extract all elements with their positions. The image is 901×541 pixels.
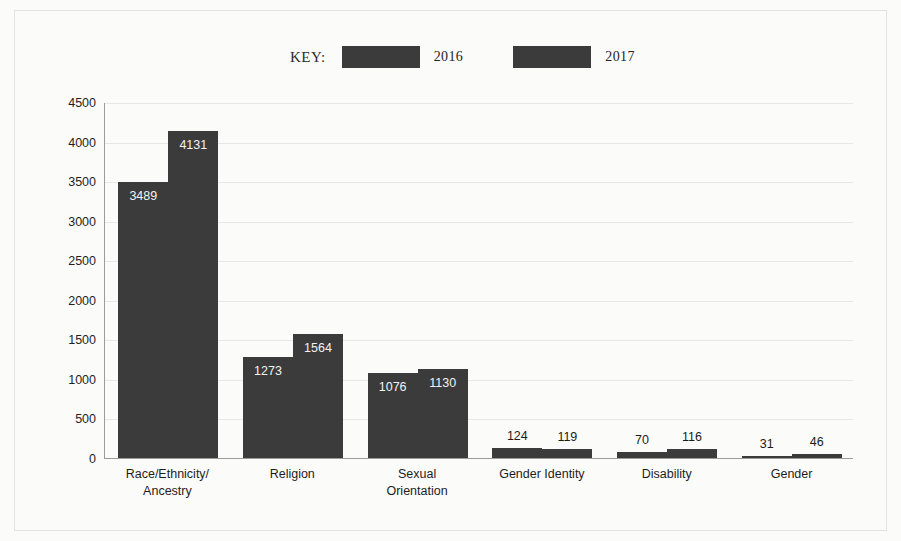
y-axis-tick-label: 3000	[68, 215, 96, 229]
y-axis-tick-label: 0	[89, 452, 96, 466]
bar-group: 3146	[729, 103, 854, 458]
bar-2016[interactable]: 1273	[243, 357, 293, 458]
x-axis-category-label: Sexual Orientation	[355, 466, 480, 500]
bar-2017[interactable]: 4131	[168, 131, 218, 458]
legend-item-2017: 2017	[513, 46, 635, 68]
legend-swatch-2017-icon	[513, 46, 591, 68]
bar-value-label: 1273	[254, 364, 282, 378]
legend-item-2016: 2016	[342, 46, 464, 68]
x-axis-category-label: Religion	[230, 466, 355, 500]
bar-2016[interactable]: 124	[492, 448, 542, 458]
legend-key-label: KEY:	[290, 49, 326, 66]
bar-value-label: 70	[635, 433, 649, 447]
bar-2017[interactable]: 1130	[418, 369, 468, 458]
bar-value-label: 3489	[129, 189, 157, 203]
plot-area: 450040003500300025002000150010005000 348…	[104, 103, 853, 459]
bar-2016[interactable]: 3489	[118, 182, 168, 458]
y-axis-tick-label: 1000	[68, 373, 96, 387]
x-axis-category-label: Gender	[729, 466, 854, 500]
legend-swatch-2016-icon	[342, 46, 420, 68]
bar-value-label: 124	[507, 429, 528, 443]
bar-2017[interactable]: 116	[667, 449, 717, 458]
bar-2016[interactable]: 70	[617, 452, 667, 458]
bar-value-label: 1130	[429, 376, 456, 390]
y-axis-tick-label: 1500	[68, 333, 96, 347]
legend-label-2016: 2016	[434, 49, 464, 65]
bar-2016[interactable]: 1076	[368, 373, 418, 458]
bar-group: 124119	[480, 103, 605, 458]
y-axis-tick-label: 3500	[68, 175, 96, 189]
x-axis-category-label: Gender Identity	[479, 466, 604, 500]
bar-value-label: 119	[557, 430, 577, 444]
bar-value-label: 1076	[379, 380, 407, 394]
bar-2017[interactable]: 119	[542, 449, 592, 458]
y-axis-tick-label: 2500	[68, 254, 96, 268]
legend-label-2017: 2017	[605, 49, 635, 65]
chart-legend: KEY: 2016 2017	[290, 40, 635, 74]
x-axis-category-label: Race/Ethnicity/ Ancestry	[105, 466, 230, 500]
bar-groups: 348941311273156410761130124119701163146	[106, 103, 854, 458]
bar-2017[interactable]: 1564	[293, 334, 343, 458]
bar-group: 10761130	[355, 103, 480, 458]
bar-value-label: 4131	[179, 138, 207, 152]
y-axis-tick-label: 500	[75, 412, 96, 426]
bar-value-label: 31	[760, 437, 774, 451]
bar-group: 12731564	[231, 103, 356, 458]
y-axis-tick-label: 4500	[68, 96, 96, 110]
x-axis-labels: Race/Ethnicity/ AncestryReligionSexual O…	[105, 466, 854, 500]
bar-value-label: 1564	[304, 341, 332, 355]
chart-page: KEY: 2016 2017 4500400035003000250020001…	[0, 0, 901, 541]
bar-2017[interactable]: 46	[792, 454, 842, 458]
bar-group: 34894131	[106, 103, 231, 458]
x-axis-category-label: Disability	[604, 466, 729, 500]
plot-wrapper: 450040003500300025002000150010005000 348…	[104, 103, 853, 459]
bar-2016[interactable]: 31	[742, 456, 792, 458]
bar-group: 70116	[605, 103, 730, 458]
bar-value-label: 116	[682, 430, 702, 444]
y-axis-tick-label: 2000	[68, 294, 96, 308]
y-axis-tick-label: 4000	[68, 136, 96, 150]
bar-value-label: 46	[810, 435, 824, 449]
